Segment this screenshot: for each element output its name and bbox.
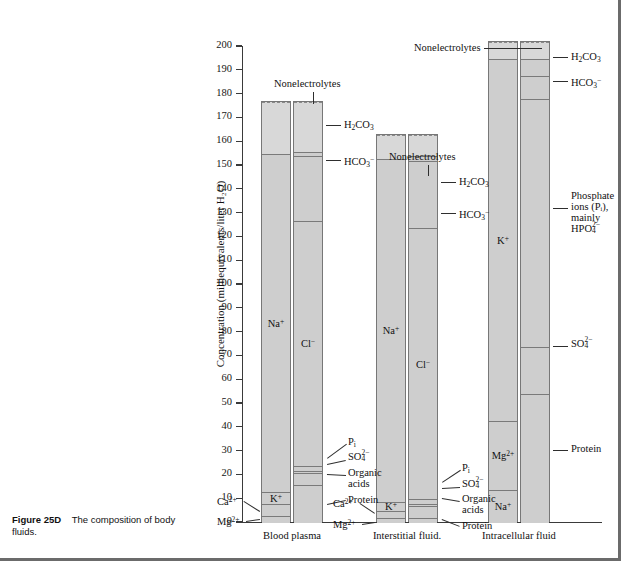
bar-blood-plasma-anions: Cl− — [293, 101, 323, 522]
segment-mg--: Mg2+ — [489, 421, 517, 490]
leader-nonelectrolytes-interstitial — [428, 165, 429, 176]
annotation-pi-interstitial: Pi — [462, 462, 470, 476]
y-tick-160 — [236, 141, 242, 142]
leader-h2co3-plasma — [326, 125, 341, 126]
annotation-nonelectrolytes-intracellular: Nonelectrolytes — [414, 42, 480, 54]
annotation-so4-interstitial: SO2−42− — [462, 478, 483, 491]
segment-mg-- — [377, 518, 405, 523]
segment-label: Na+ — [262, 317, 290, 329]
body-fluid-composition-chart: 0102030405060708090100110120130140150160… — [196, 30, 620, 540]
annotation-h2co3-intracellular: H2CO3 — [571, 51, 601, 65]
leader-so4-interstitial — [442, 487, 460, 489]
bar-interstitial-fluid--cations: K+Na+ — [376, 134, 406, 522]
segment-k-: K+ — [262, 492, 290, 504]
segment-organic-acids — [294, 473, 322, 485]
leader-hco3-interstitial — [441, 213, 456, 214]
annotation-organic-acids-interstitial: Organicacids — [462, 493, 496, 515]
annotation-organic-acids-plasma: Organicacids — [348, 467, 382, 489]
leader-pi-plasma — [327, 444, 347, 459]
annotation-mg-interstitial: Mg2+ — [333, 517, 356, 531]
segment-cl-: Cl− — [294, 221, 322, 466]
annotation-so4-intracellular: SO2−42− — [571, 338, 592, 351]
segment-label: Mg2+ — [489, 449, 517, 461]
annotation-phosphate-intracellular: Phosphateions (Pᵢ),mainlyHPO2−42− — [571, 190, 614, 235]
annotation-hco3-interstitial: HCO3− — [459, 207, 489, 224]
leader-organic-acids-plasma — [327, 474, 346, 476]
y-tick-110 — [236, 260, 242, 261]
y-tick-40 — [236, 426, 242, 427]
leader-hco3-intracellular — [553, 81, 568, 82]
leader-nonelectrolytes-intracellular — [484, 48, 542, 49]
y-tick-190 — [236, 69, 242, 70]
segment-k-: K+ — [377, 502, 405, 512]
leader-ca-plasma — [243, 501, 260, 512]
segment-label: K+ — [262, 492, 290, 504]
segment-h2co3 — [294, 152, 322, 157]
annotation-so4-plasma: SO2−42− — [348, 451, 369, 464]
category-label-0: Blood plasma — [237, 530, 347, 541]
segment-so4-2- — [521, 347, 549, 395]
y-tick-90 — [236, 307, 242, 308]
annotation-ca-plasma: Ca2+ — [217, 494, 237, 508]
y-tick-10 — [236, 498, 242, 499]
segment-nonelectrolytes — [489, 42, 517, 59]
y-tick-150 — [236, 164, 242, 165]
segment-hco3- — [521, 76, 549, 100]
y-tick-label-200: 200 — [196, 40, 232, 51]
y-tick-130 — [236, 212, 242, 213]
annotation-nonelectrolytes-plasma: Nonelectrolytes — [274, 78, 340, 90]
annotation-mg-plasma: Mg2+ — [217, 514, 240, 528]
segment-hco3- — [409, 161, 437, 228]
leader-h2co3-interstitial — [441, 182, 456, 183]
leader-organic-acids-interstitial — [442, 498, 460, 502]
category-label-1: Interstitial fluid. — [352, 530, 462, 541]
y-tick-50 — [236, 402, 242, 403]
segment-pi — [294, 466, 322, 471]
annotation-protein-interstitial: Protein — [462, 520, 492, 532]
figure-caption: Figure 25D The composition of body fluid… — [12, 514, 202, 538]
leader-so4-intracellular — [553, 346, 568, 347]
leader-so4-plasma — [327, 460, 346, 465]
annotation-h2co3-interstitial: H2CO3 — [459, 176, 489, 190]
y-axis-label: Concentration (milliequivalents/liter H₂… — [214, 64, 226, 484]
leader-h2co3-intracellular — [553, 57, 568, 58]
leader-nonelectrolytes-plasma — [313, 92, 314, 104]
y-axis-line — [242, 46, 243, 523]
segment-k-: K+ — [489, 59, 517, 421]
annotation-hco3-plasma: HCO3− — [344, 154, 374, 171]
annotation-nonelectrolytes-interstitial: Nonelectrolytes — [389, 151, 455, 163]
figure-number: Figure 25D — [12, 514, 61, 525]
leader-pi-interstitial — [442, 470, 461, 483]
annotation-h2co3-plasma: H2CO3 — [344, 119, 374, 133]
segment-nonelectrolytes — [294, 102, 322, 154]
segment-phosphate — [521, 99, 549, 347]
segment-nonelectrolytes — [262, 102, 290, 154]
annotation-protein-intracellular: Protein — [571, 443, 601, 455]
leader-hco3-plasma — [326, 160, 341, 161]
segment-protein — [294, 485, 322, 523]
bar-interstitial-fluid--anions: Cl− — [408, 134, 438, 522]
y-tick-20 — [236, 474, 242, 475]
segment-pi — [409, 499, 437, 504]
segment-label: Cl− — [409, 358, 437, 370]
y-tick-60 — [236, 379, 242, 380]
segment-hco3- — [294, 156, 322, 220]
segment-protein — [521, 394, 549, 523]
segment-na-: Na+ — [262, 154, 290, 492]
segment-organic-acids — [409, 506, 437, 518]
segment-label: Cl− — [294, 337, 322, 349]
segment-h2co3 — [521, 59, 549, 76]
leader-phosphate-intracellular — [553, 208, 568, 209]
annotation-hco3-intracellular: HCO3− — [571, 75, 601, 92]
segment-so4-2- — [294, 471, 322, 473]
segment-cl-: Cl− — [409, 228, 437, 499]
segment-protein — [409, 518, 437, 523]
bar-intracellular-fluid-cations: Na+Mg2+K+ — [488, 41, 518, 522]
y-tick-180 — [236, 93, 242, 94]
leader-protein-intracellular — [553, 450, 568, 451]
y-tick-70 — [236, 355, 242, 356]
segment-so4-2- — [409, 504, 437, 506]
segment-label: Na+ — [377, 324, 405, 336]
bar-intracellular-fluid-anions — [520, 41, 550, 522]
y-tick-80 — [236, 331, 242, 332]
